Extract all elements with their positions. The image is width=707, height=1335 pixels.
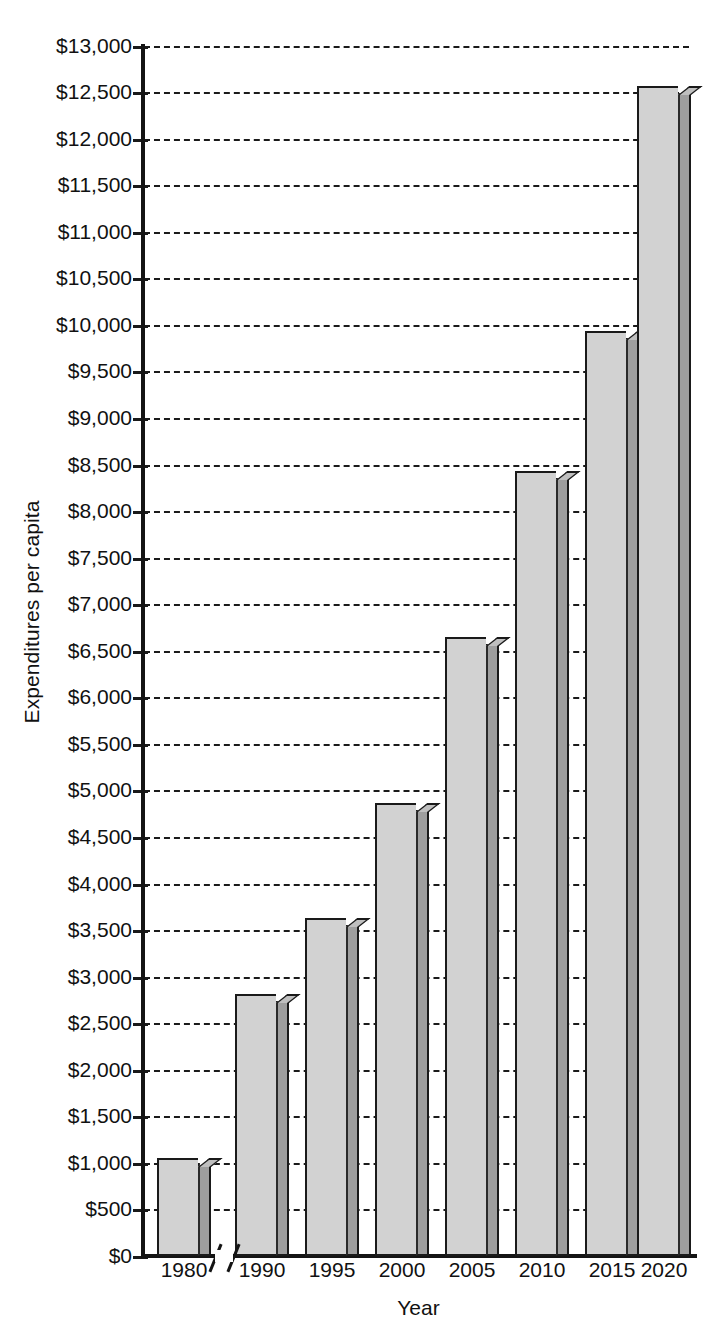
x-axis-tick-label: 2000 xyxy=(379,1258,426,1282)
bar-side-face xyxy=(678,93,691,1256)
bar-front-face xyxy=(445,637,486,1256)
bar-2015 xyxy=(585,331,639,1256)
y-axis-tick-label: $9,500 xyxy=(7,359,132,383)
y-axis-tick-label: $6,000 xyxy=(7,685,132,709)
y-axis-tick-label: $2,500 xyxy=(7,1011,132,1035)
bar-side-face xyxy=(416,810,429,1256)
y-axis-tick-label: $0 xyxy=(7,1244,132,1268)
y-axis-tick-label: $3,000 xyxy=(7,965,132,989)
bar-front-face xyxy=(305,918,346,1256)
bar-2010 xyxy=(515,471,569,1256)
y-axis-tick-labels: $13,000$12,500$12,000$11,500$11,000$10,5… xyxy=(0,0,132,1335)
bar-front-face xyxy=(515,471,556,1256)
bar-side-face xyxy=(556,478,569,1256)
y-axis-line xyxy=(141,44,145,1258)
y-axis-tick-label: $4,000 xyxy=(7,872,132,896)
x-axis-tick-label: 2005 xyxy=(449,1258,496,1282)
y-axis-tick-label: $6,500 xyxy=(7,639,132,663)
bar-2020 xyxy=(637,86,691,1256)
y-axis-tick-label: $1,000 xyxy=(7,1151,132,1175)
bar-top-face xyxy=(346,918,371,927)
bar-1990 xyxy=(235,994,289,1256)
bar-1995 xyxy=(305,918,359,1256)
x-axis-title: Year xyxy=(130,1296,707,1320)
gridline xyxy=(144,139,689,141)
bar-top-face xyxy=(556,471,581,480)
gridline xyxy=(144,185,689,187)
bar-2000 xyxy=(375,803,429,1256)
y-axis-tick-label: $8,000 xyxy=(7,499,132,523)
bar-top-face xyxy=(198,1158,223,1167)
y-axis-tick-label: $13,000 xyxy=(7,34,132,58)
y-axis-tick-label: $4,500 xyxy=(7,825,132,849)
bar-front-face xyxy=(375,803,416,1256)
bar-front-face xyxy=(235,994,276,1256)
gridline xyxy=(144,325,689,327)
y-axis-tick-label: $11,500 xyxy=(7,173,132,197)
x-axis-tick-label: 1990 xyxy=(239,1258,286,1282)
y-axis-tick-label: $2,000 xyxy=(7,1058,132,1082)
bar-top-face xyxy=(416,803,441,812)
x-axis-tick-label: 2015 xyxy=(589,1258,636,1282)
y-axis-tick-label: $12,500 xyxy=(7,80,132,104)
y-axis-tick-label: $3,500 xyxy=(7,918,132,942)
bar-2005 xyxy=(445,637,499,1256)
y-axis-tick-label: $8,500 xyxy=(7,453,132,477)
y-axis-tick-label: $500 xyxy=(7,1197,132,1221)
y-axis-tick-label: $9,000 xyxy=(7,406,132,430)
y-axis-tick-label: $7,500 xyxy=(7,546,132,570)
bar-front-face xyxy=(637,86,678,1256)
bar-chart: Expenditures per capita $13,000$12,500$1… xyxy=(0,0,707,1335)
bar-side-face xyxy=(276,1001,289,1256)
y-axis-tick-label: $5,000 xyxy=(7,778,132,802)
gridline xyxy=(144,46,689,48)
y-axis-tick-label: $12,000 xyxy=(7,127,132,151)
bar-side-face xyxy=(486,644,499,1256)
bar-top-face xyxy=(486,637,511,646)
bar-front-face xyxy=(585,331,626,1256)
bar-top-face xyxy=(276,994,301,1003)
y-axis-tick-label: $1,500 xyxy=(7,1104,132,1128)
bar-1980 xyxy=(157,1158,211,1256)
x-axis-tick-label: 2010 xyxy=(519,1258,566,1282)
x-axis-tick-label: 1980 xyxy=(161,1258,208,1282)
gridline xyxy=(144,92,689,94)
axis-break-gap xyxy=(215,1250,233,1262)
y-axis-tick-label: $10,000 xyxy=(7,313,132,337)
y-axis-tick-label: $7,000 xyxy=(7,592,132,616)
x-axis-tick-label: 1995 xyxy=(309,1258,356,1282)
y-axis-tick-label: $11,000 xyxy=(7,220,132,244)
y-axis-tick-label: $5,500 xyxy=(7,732,132,756)
bar-side-face xyxy=(198,1165,211,1256)
bar-top-face xyxy=(678,86,703,95)
bar-side-face xyxy=(346,925,359,1256)
gridline xyxy=(144,232,689,234)
y-axis-tick-label: $10,500 xyxy=(7,266,132,290)
bar-front-face xyxy=(157,1158,198,1256)
gridline xyxy=(144,278,689,280)
x-axis-tick-label: 2020 xyxy=(641,1258,688,1282)
